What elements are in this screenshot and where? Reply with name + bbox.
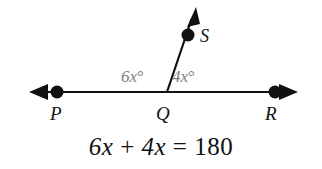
angle-label-SQR-degree: ° [188, 67, 195, 86]
equation-equals: = [173, 133, 188, 160]
equation-result: 180 [194, 133, 233, 160]
point-label-S: S [200, 27, 209, 45]
equation-term-1: 6x [89, 133, 114, 160]
equation-term-2: 4x [142, 133, 167, 160]
angle-label-SQR-value: 4x [172, 67, 188, 86]
equation-operator: + [120, 133, 135, 160]
equation-line: 6x + 4x = 180 [0, 134, 322, 159]
angle-label-PQS: 6x° [121, 68, 144, 85]
point-label-R: R [265, 104, 277, 123]
angle-label-SQR: 4x° [172, 68, 195, 85]
point-label-P: P [50, 104, 62, 123]
angle-label-PQS-value: 6x [121, 67, 137, 86]
left-arrowhead-icon [29, 84, 48, 100]
right-arrowhead-icon [279, 84, 298, 100]
geometry-figure-canvas: P Q R S 6x° 4x° 6x + 4x = 180 [0, 0, 322, 169]
angle-label-PQS-degree: ° [137, 67, 144, 86]
point-dot-R [269, 86, 282, 99]
ray-arrowhead-icon [187, 7, 200, 27]
point-label-Q: Q [156, 104, 170, 123]
point-dot-P [51, 86, 64, 99]
point-dot-S [182, 29, 195, 42]
